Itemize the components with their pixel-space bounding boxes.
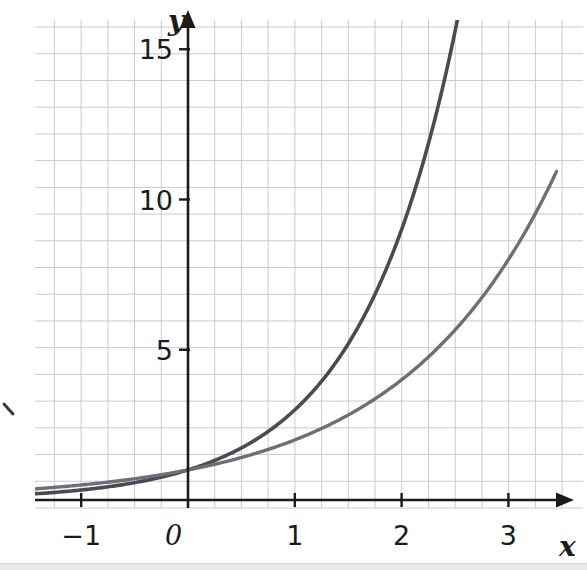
x-tick-label: 1 [286, 520, 303, 551]
exponential-graph-svg: −112351015 y x 0 [0, 0, 587, 570]
y-tick-label: 15 [139, 34, 173, 65]
x-axis-arrowhead [556, 493, 574, 508]
curve-series-0 [35, 0, 465, 494]
curve-group [35, 0, 556, 494]
x-tick-label: −1 [61, 520, 101, 551]
x-tick-label: 2 [393, 520, 410, 551]
page-bottom-rule [0, 563, 587, 570]
axis-group [35, 10, 574, 508]
origin-label: 0 [165, 520, 182, 551]
y-tick-label: 10 [139, 185, 173, 216]
y-tick-label: 5 [156, 335, 173, 366]
graph-figure: −112351015 y x 0 [0, 0, 587, 570]
curve-series-1 [35, 172, 556, 489]
y-axis-label: y [167, 4, 186, 37]
tick-group: −112351015 [61, 34, 517, 551]
x-axis-label: x [558, 530, 576, 563]
x-tick-label: 3 [500, 520, 517, 551]
scan-artifact-mark [4, 404, 13, 414]
